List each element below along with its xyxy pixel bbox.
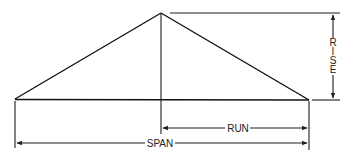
- base-line: [15, 100, 309, 101]
- roof-triangle: [15, 13, 309, 100]
- span-dimension: SPAN: [17, 138, 307, 149]
- right-rafter: [161, 13, 309, 100]
- run-dimension: RUN: [163, 123, 307, 134]
- roof-dimension-diagram: R I S E RUN SPAN: [0, 0, 349, 158]
- left-rafter: [15, 13, 161, 99]
- rise-dimension: R I S E: [329, 15, 336, 98]
- run-label: RUN: [227, 123, 249, 134]
- span-label: SPAN: [147, 138, 174, 149]
- rise-letter-e: E: [330, 64, 337, 75]
